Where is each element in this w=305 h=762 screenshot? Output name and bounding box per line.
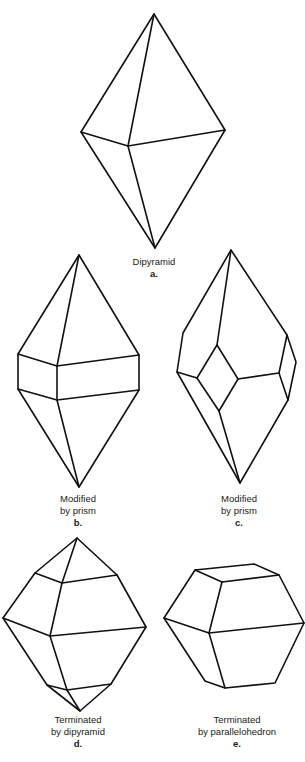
crystal-a-dipyramid <box>81 14 225 248</box>
caption-a-line-1: Dipyramid <box>133 256 176 268</box>
caption-c-line-1: Modified <box>221 493 257 505</box>
caption-d-line-1: Terminated <box>51 714 105 726</box>
caption-c-line-2: by prism <box>221 505 257 517</box>
caption-d: Terminated by dipyramid d. <box>51 714 105 750</box>
caption-b-line-1: Modified <box>60 493 96 505</box>
caption-e-line-2: by parallelohedron <box>198 726 276 738</box>
caption-e-letter: e. <box>198 738 276 750</box>
caption-b-line-2: by prism <box>60 505 96 517</box>
caption-e: Terminated by parallelohedron e. <box>198 714 276 750</box>
caption-e-line-1: Terminated <box>198 714 276 726</box>
caption-a-letter: a. <box>133 268 176 280</box>
crystal-c-modified-by-prism <box>177 250 296 483</box>
caption-c-letter: c. <box>221 517 257 529</box>
crystal-e-terminated-by-parallelohedron <box>164 564 304 688</box>
caption-a: Dipyramid a. <box>133 256 176 280</box>
caption-c: Modified by prism c. <box>221 493 257 529</box>
caption-d-letter: d. <box>51 738 105 750</box>
crystal-forms-diagram <box>0 0 305 762</box>
crystal-d-terminated-by-dipyramid <box>3 538 146 711</box>
caption-b: Modified by prism b. <box>60 493 96 529</box>
caption-b-letter: b. <box>60 517 96 529</box>
caption-d-line-2: by dipyramid <box>51 726 105 738</box>
crystal-b-modified-by-prism <box>18 255 139 487</box>
